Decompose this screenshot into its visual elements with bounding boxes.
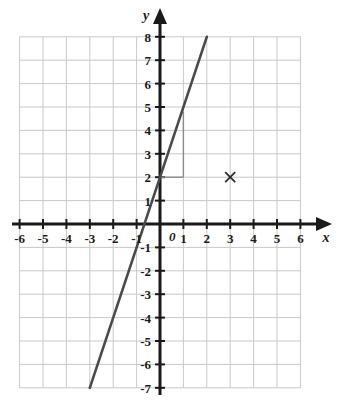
x-axis-arrowhead <box>316 217 332 231</box>
y-axis-tick-label: 2 <box>145 170 152 185</box>
axis-tick-labels: -6-5-4-3-2-112345687654321-1-2-3-4-5-6-7… <box>14 8 329 396</box>
x-axis-tick-label: 3 <box>227 231 234 246</box>
y-axis-tick-label: 3 <box>145 147 152 162</box>
y-axis-tick-label: 4 <box>145 123 152 138</box>
y-axis-tick-label: -5 <box>140 334 151 349</box>
x-axis-tick-label: 5 <box>274 231 281 246</box>
y-axis-tick-label: 8 <box>145 30 152 45</box>
y-axis-tick-label: 1 <box>145 194 152 209</box>
y-axis-tick-label: 5 <box>145 100 152 115</box>
y-axis-tick-label: 6 <box>145 77 152 92</box>
y-axis-tick-label: -7 <box>140 381 151 396</box>
y-axis-arrowhead <box>153 8 167 24</box>
y-axis-tick-label: -3 <box>140 287 151 302</box>
x-axis-tick-label: -6 <box>14 231 25 246</box>
x-axis-tick-label: -3 <box>84 231 95 246</box>
x-axis-label: x <box>322 230 330 245</box>
y-axis-tick-label: 7 <box>145 53 152 68</box>
graph-canvas: -6-5-4-3-2-112345687654321-1-2-3-4-5-6-7… <box>0 0 340 403</box>
x-axis-tick-label: -2 <box>108 231 119 246</box>
x-axis-tick-label: -5 <box>38 231 49 246</box>
x-axis-tick-label: 4 <box>250 231 257 246</box>
x-axis-tick-label: 6 <box>297 231 304 246</box>
y-axis-tick-label: -6 <box>140 357 151 372</box>
axis-lines <box>12 8 332 395</box>
origin-label: 0 <box>169 229 176 244</box>
x-axis-tick-label: 2 <box>204 231 211 246</box>
y-axis-label: y <box>141 8 150 23</box>
x-axis-tick-label: -4 <box>61 231 72 246</box>
coordinate-graph-figure: -6-5-4-3-2-112345687654321-1-2-3-4-5-6-7… <box>0 0 340 403</box>
x-axis-tick-label: 1 <box>180 231 187 246</box>
y-axis-tick-label: -4 <box>140 311 151 326</box>
y-axis-tick-label: -2 <box>140 264 151 279</box>
y-axis-tick-label: -1 <box>140 240 151 255</box>
